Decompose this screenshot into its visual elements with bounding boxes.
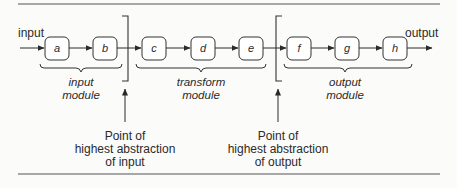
input-label: input [18, 26, 45, 40]
node-label-a: a [54, 42, 60, 54]
node-label-h: h [392, 42, 398, 54]
node-label-d: d [200, 42, 207, 54]
output-label: output [405, 26, 439, 40]
module-transform-line1: transform [177, 76, 226, 88]
node-label-c: c [151, 42, 157, 54]
module-input-line1: input [69, 76, 95, 88]
node-label-e: e [248, 42, 254, 54]
annotation-input-line1: Point of [105, 129, 146, 143]
node-label-b: b [102, 42, 108, 54]
annotation-output-line1: Point of [258, 129, 299, 143]
annotation-output-line2: highest abstraction [228, 142, 329, 156]
annotation-input-line2: highest abstraction [75, 142, 176, 156]
abstraction-pipeline-diagram: input output a b c d e f g h input modul… [0, 0, 457, 188]
node-label-g: g [344, 42, 351, 54]
module-input-line2: module [62, 89, 100, 101]
module-output-line2: module [326, 89, 364, 101]
annotation-output-line3: of output [255, 155, 302, 169]
annotation-input-line3: of input [105, 155, 145, 169]
module-transform-line2: module [182, 89, 220, 101]
module-output-line1: output [329, 76, 362, 88]
